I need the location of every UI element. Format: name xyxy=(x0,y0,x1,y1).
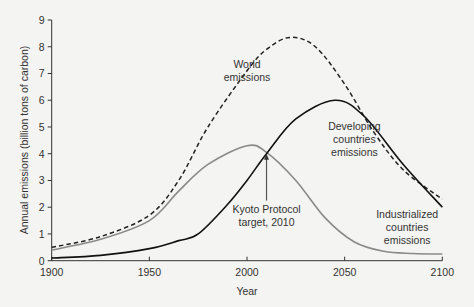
developing-emissions-label: Developingcountriesemissions xyxy=(328,120,381,158)
y-tick-label: 8 xyxy=(39,41,45,53)
x-tick-label: 2000 xyxy=(235,266,259,278)
world-emissions-label: Worldemissions xyxy=(224,58,271,83)
y-tick-label: 5 xyxy=(39,121,45,133)
y-tick-label: 3 xyxy=(39,174,45,186)
industrialized-emissions-label: Industrializedcountriesemissions xyxy=(376,208,438,246)
y-tick-label: 7 xyxy=(39,67,45,79)
x-tick-label: 2050 xyxy=(333,266,357,278)
y-tick-label: 4 xyxy=(39,148,45,160)
x-axis: 19001950200020502100 xyxy=(40,257,454,278)
y-tick-label: 9 xyxy=(39,14,45,26)
annotations: WorldemissionsDevelopingcountriesemissio… xyxy=(224,58,439,246)
y-axis: 0123456789 xyxy=(39,14,52,267)
x-tick-label: 2100 xyxy=(431,266,455,278)
y-tick-label: 1 xyxy=(39,228,45,240)
x-axis-title: Year xyxy=(236,285,258,297)
x-tick-label: 1900 xyxy=(40,266,64,278)
y-tick-label: 2 xyxy=(39,201,45,213)
y-tick-label: 6 xyxy=(39,94,45,106)
y-axis-title: Annual emissions (billion tons of carbon… xyxy=(18,46,30,235)
kyoto-target-label: Kyoto Protocoltarget, 2010 xyxy=(232,203,300,228)
emissions-line-chart: 0123456789 19001950200020502100 Worldemi… xyxy=(0,0,474,307)
y-tick-label: 0 xyxy=(39,255,45,267)
x-tick-label: 1950 xyxy=(138,266,162,278)
